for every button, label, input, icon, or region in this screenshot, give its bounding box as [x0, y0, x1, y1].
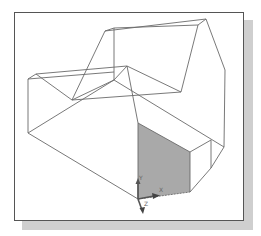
ucs-y-label: Y — [138, 174, 143, 181]
ucs-x-label: X — [159, 186, 163, 193]
selected-face[interactable] — [138, 123, 190, 199]
ucs-z-label: Z — [144, 200, 148, 207]
wireframe-drawing: Y X Z — [0, 0, 261, 236]
wireframe-edges — [28, 19, 225, 199]
ucs-z-arrow-icon — [140, 207, 146, 214]
